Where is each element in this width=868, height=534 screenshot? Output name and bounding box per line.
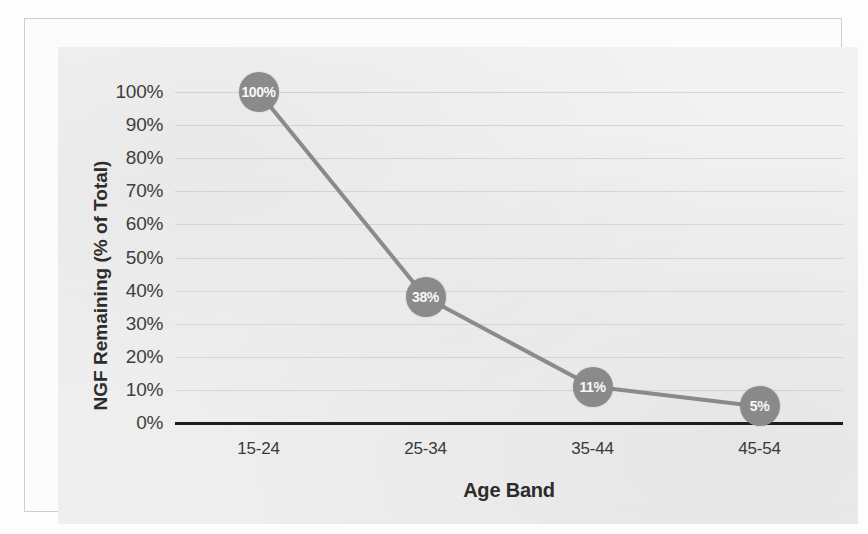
plot-area: 100%90%80%70%60%50%40%30%20%10%0% 15-242… [175, 92, 843, 423]
y-tick-label: 30% [126, 313, 163, 335]
y-tick-label: 20% [126, 346, 163, 368]
data-point-marker[interactable]: 11% [573, 367, 613, 407]
x-tick-label: 35-44 [571, 439, 613, 459]
x-axis-title: Age Band [175, 479, 843, 502]
y-tick-label: 40% [126, 280, 163, 302]
figure-frame: NGF Remaining (% of Total) 100%90%80%70%… [24, 18, 842, 512]
y-tick-label: 60% [126, 213, 163, 235]
x-tick-label: 45-54 [738, 439, 780, 459]
y-tick-label: 90% [126, 114, 163, 136]
y-tick-label: 10% [126, 379, 163, 401]
y-tick-label: 70% [126, 180, 163, 202]
page-background: NGF Remaining (% of Total) 100%90%80%70%… [0, 0, 868, 534]
data-point-marker[interactable]: 100% [239, 72, 279, 112]
y-tick-label: 50% [126, 247, 163, 269]
chart-figure: NGF Remaining (% of Total) 100%90%80%70%… [58, 47, 858, 524]
series-line [175, 92, 843, 423]
y-tick-label: 80% [126, 147, 163, 169]
y-tick-label: 100% [116, 81, 163, 103]
x-tick-label: 15-24 [237, 439, 279, 459]
y-axis-title: NGF Remaining (% of Total) [88, 120, 114, 451]
y-tick-label: 0% [136, 412, 163, 434]
data-point-marker[interactable]: 5% [740, 386, 780, 426]
data-point-marker[interactable]: 38% [406, 277, 446, 317]
x-tick-label: 25-34 [404, 439, 446, 459]
